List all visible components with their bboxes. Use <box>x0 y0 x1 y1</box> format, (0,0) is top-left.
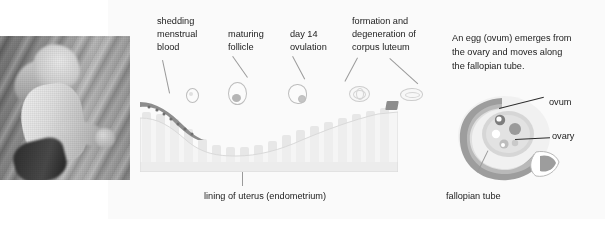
label-ovum: ovum <box>549 96 605 109</box>
endometrium-gland <box>212 145 221 162</box>
label-shedding-menstrual-blood: shedding menstrual blood <box>157 15 217 55</box>
running-woman-photo <box>0 36 130 180</box>
endometrium-gland <box>324 122 333 162</box>
corpus-luteum-degenerating-icon <box>400 88 423 101</box>
endometrium-gland <box>226 147 235 162</box>
endometrium-right-cap <box>385 101 399 110</box>
endometrium-gland <box>142 112 151 162</box>
leader-line-endometrium-caption <box>242 172 243 186</box>
label-day-14-ovulation: day 14 ovulation <box>290 28 346 54</box>
label-fallopian-tube: fallopian tube <box>446 190 546 203</box>
figure-page: shedding menstrual blood maturing follic… <box>0 0 612 230</box>
label-maturing-follicle: maturing follicle <box>228 28 284 54</box>
endometrium-gland <box>240 147 249 162</box>
endometrium-gland <box>338 118 347 162</box>
endometrium-gland <box>268 141 277 162</box>
endometrium-gland <box>198 139 207 162</box>
endometrium-cross-section <box>140 100 398 172</box>
corpus-luteum-fold-b <box>356 88 364 100</box>
endometrium-gland <box>184 129 193 162</box>
side-note-egg-emerges: An egg (ovum) emerges from the ovary and… <box>452 31 572 73</box>
small-follicle-nucleus <box>189 92 193 96</box>
endometrium-gland <box>380 108 389 162</box>
endometrium-gland <box>170 119 179 162</box>
endometrium-base-layer <box>140 162 398 172</box>
endometrium-gland <box>366 111 375 162</box>
endometrium-gland <box>282 135 291 162</box>
endometrium-gland <box>352 114 361 162</box>
photo-desaturate-overlay <box>0 36 130 180</box>
endometrium-gland <box>310 126 319 162</box>
corpus-luteum-degenerating-fold <box>405 92 420 98</box>
label-ovary: ovary <box>552 130 608 143</box>
endometrium-gland <box>156 114 165 162</box>
endometrium-gland <box>296 130 305 162</box>
caption-lining-of-uterus: lining of uterus (endometrium) <box>204 190 384 203</box>
endometrium-gland <box>254 145 263 162</box>
label-corpus-luteum: formation and degeneration of corpus lut… <box>352 15 432 55</box>
